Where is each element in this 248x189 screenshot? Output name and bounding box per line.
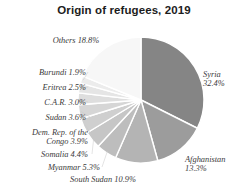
slice-label-dem-rep-congo: Dem. Rep. of the Congo 3.9% xyxy=(0,128,88,147)
pie-slice-group xyxy=(78,37,204,163)
slice-label-south-sudan: South Sudan 10.9% xyxy=(48,175,158,184)
leader-line xyxy=(102,151,107,167)
slice-label-car: C.A.R. 3.0% xyxy=(2,98,86,107)
slice-label-syria: Syria 32.4% xyxy=(203,70,248,89)
slice-label-myanmar: Myanmar 5.3% xyxy=(10,163,100,172)
slice-label-eritrea: Eritrea 2.5% xyxy=(2,83,86,92)
slice-label-burundi: Burundi 1.9% xyxy=(2,68,86,77)
slice-label-others: Others 18.8% xyxy=(30,36,122,45)
slice-label-sudan: Sudan 3.6% xyxy=(2,113,86,122)
slice-label-afghanistan: Afghanistan 13.3% xyxy=(185,155,248,174)
pie-chart-figure: Origin of refugees, 2019 Others 18.8% Bu… xyxy=(0,0,248,189)
slice-label-somalia: Somalia 4.4% xyxy=(2,150,88,159)
